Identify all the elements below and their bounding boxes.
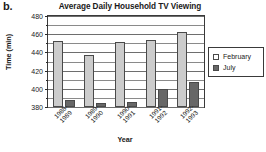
x-tick-slot: 1992-1993	[173, 109, 205, 136]
y-axis-title: Time (min)	[5, 29, 13, 75]
y-axis-tick-label: 460	[31, 31, 43, 38]
chart-title: Average Daily Household TV Viewing	[40, 2, 220, 11]
bar-groups	[48, 16, 204, 107]
bar-group	[79, 16, 110, 107]
y-axis-tick-label: 420	[31, 67, 43, 74]
legend-label-february: February	[223, 53, 251, 61]
part-label: b.	[3, 1, 12, 12]
chart-legend: February July	[208, 47, 264, 77]
bar-february-1990-1991[interactable]	[115, 42, 125, 107]
legend-item-february[interactable]: February	[213, 51, 260, 62]
bar-february-1988-1989[interactable]	[53, 41, 63, 107]
x-tick-slot: 1989-1990	[79, 109, 111, 136]
bar-group	[48, 16, 79, 107]
x-tick-slot: 1988-1989	[47, 109, 79, 136]
legend-swatch-february-icon	[213, 54, 219, 60]
bar-group	[110, 16, 141, 107]
x-axis-title: Year	[44, 136, 206, 144]
bar-february-1991-1992[interactable]	[146, 40, 156, 107]
y-axis-tick-label: 480	[31, 13, 43, 20]
x-tick-slot: 1990-1991	[110, 109, 142, 136]
y-axis-tick-label: 380	[31, 104, 43, 111]
x-tick-slot: 1991-1992	[142, 109, 174, 136]
y-axis-tick-label: 440	[31, 49, 43, 56]
bar-group	[142, 16, 173, 107]
bar-february-1989-1990[interactable]	[84, 55, 94, 107]
legend-item-july[interactable]: July	[213, 62, 260, 73]
legend-swatch-july-icon	[213, 65, 219, 71]
x-axis-tick-labels: 1988-19891989-19901990-19911991-19921992…	[47, 109, 205, 136]
bar-february-1992-1993[interactable]	[177, 32, 187, 107]
y-axis-tick	[45, 107, 48, 108]
chart-figure: b. Average Daily Household TV Viewing Ti…	[0, 0, 266, 152]
plot-area: 380400420440460480	[47, 15, 205, 108]
y-axis-tick-label: 400	[31, 85, 43, 92]
bar-group	[173, 16, 204, 107]
legend-label-july: July	[223, 64, 235, 72]
